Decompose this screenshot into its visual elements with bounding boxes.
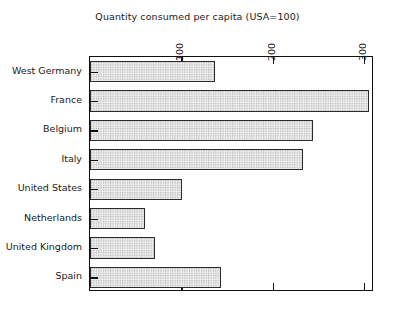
bar [90, 208, 145, 229]
category-label: United States [18, 183, 82, 193]
category-axis-labels: West GermanyFranceBelgiumItalyUnited Sta… [0, 56, 82, 291]
bar-row [90, 120, 374, 141]
category-label: Spain [55, 271, 82, 281]
category-label: Belgium [43, 124, 82, 134]
category-label: France [50, 95, 82, 105]
category-label: United Kingdom [6, 242, 82, 252]
x-tick-label: 200 [266, 43, 277, 61]
bar-row [90, 90, 374, 111]
bar [90, 90, 369, 111]
y-tick-mark [90, 72, 98, 73]
bar-chart: Quantity consumed per capita (USA=100) W… [0, 0, 395, 312]
y-tick-mark [90, 160, 98, 161]
y-tick-mark [90, 189, 98, 190]
bar-row [90, 149, 374, 170]
y-tick-mark [90, 248, 98, 249]
bar [90, 267, 221, 288]
category-label: West Germany [12, 66, 82, 76]
y-tick-mark [90, 277, 98, 278]
plot-area [89, 56, 373, 291]
bar-row [90, 267, 374, 288]
bar [90, 179, 182, 200]
bar-row [90, 237, 374, 258]
bar [90, 149, 303, 170]
bar [90, 61, 215, 82]
y-tick-mark [90, 101, 98, 102]
bar-row [90, 179, 374, 200]
bar [90, 120, 313, 141]
bar-row [90, 208, 374, 229]
x-tick-label: 300 [357, 43, 368, 61]
y-tick-mark [90, 219, 98, 220]
chart-title: Quantity consumed per capita (USA=100) [0, 11, 395, 22]
bar [90, 237, 155, 258]
x-tick-label: 100 [174, 43, 185, 61]
bar-row [90, 61, 374, 82]
category-label: Netherlands [24, 213, 82, 223]
category-label: Italy [61, 154, 82, 164]
y-tick-mark [90, 130, 98, 131]
